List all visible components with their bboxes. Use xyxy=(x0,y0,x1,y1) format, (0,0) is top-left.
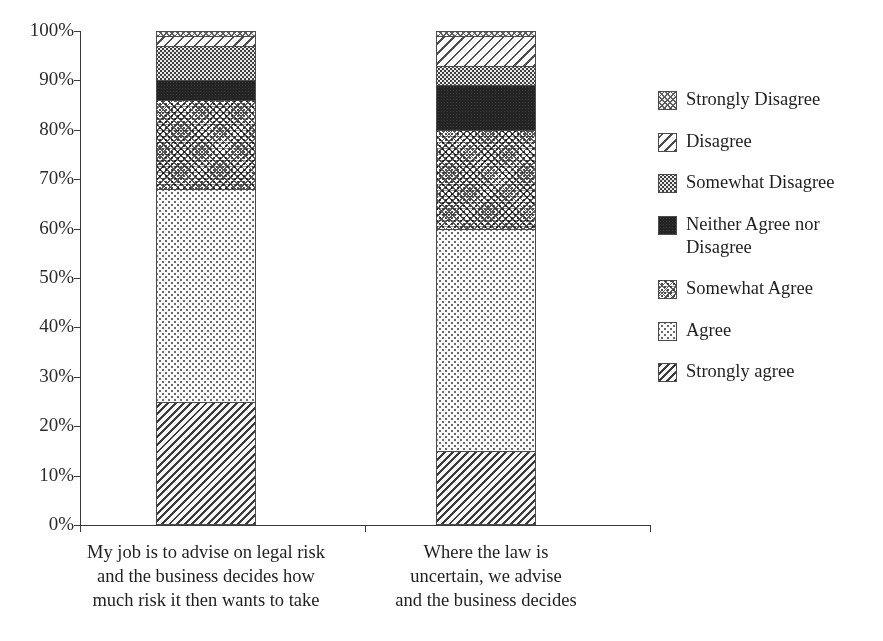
bar-segment xyxy=(156,402,256,526)
y-axis-tick-label: 10% xyxy=(39,464,74,486)
legend-item[interactable]: Somewhat Disagree xyxy=(658,171,883,194)
y-axis-tick-mark xyxy=(74,377,81,378)
y-axis-tick-label: 0% xyxy=(49,513,74,535)
y-axis-tick-label: 20% xyxy=(39,414,74,436)
wave-pattern-overlay xyxy=(157,101,255,189)
y-axis-tick-mark xyxy=(74,179,81,180)
legend-item[interactable]: Strongly agree xyxy=(658,360,883,383)
stacked-bar xyxy=(436,31,536,525)
legend-item-label: Disagree xyxy=(686,130,752,153)
bar-segment xyxy=(156,36,256,46)
wave-pattern-overlay xyxy=(659,281,676,298)
legend-swatch-icon xyxy=(658,91,677,110)
wave-pattern-overlay xyxy=(437,131,535,229)
bar-segment xyxy=(156,100,256,189)
x-axis-category-label: My job is to advise on legal riskand the… xyxy=(61,540,351,612)
y-axis-tick-label: 70% xyxy=(39,167,74,189)
legend-item-label: Strongly Disagree xyxy=(686,88,820,111)
y-axis-tick-mark xyxy=(74,31,81,32)
stacked-bar xyxy=(156,31,256,525)
x-axis-tick-mark xyxy=(365,525,366,532)
legend-item[interactable]: Somewhat Agree xyxy=(658,277,883,300)
legend-item-label: Somewhat Agree xyxy=(686,277,813,300)
bar-segment xyxy=(436,66,536,86)
x-axis-category-label-line: much risk it then wants to take xyxy=(61,588,351,612)
x-axis-category-label-line: and the business decides xyxy=(341,588,631,612)
bar-segment xyxy=(156,189,256,401)
y-axis-tick-mark xyxy=(74,476,81,477)
y-axis-tick-label: 40% xyxy=(39,315,74,337)
legend-swatch-icon xyxy=(658,363,677,382)
x-axis-tick-mark xyxy=(650,525,651,532)
y-axis-tick-mark xyxy=(74,80,81,81)
legend-item-label: Neither Agree nor Disagree xyxy=(686,213,883,259)
y-axis-tick-label: 80% xyxy=(39,118,74,140)
x-axis-category-label: Where the law isuncertain, we adviseand … xyxy=(341,540,631,612)
legend: Strongly DisagreeDisagreeSomewhat Disagr… xyxy=(658,88,883,402)
y-axis-tick-mark xyxy=(74,327,81,328)
bar-segment xyxy=(436,130,536,229)
legend-swatch-icon xyxy=(658,174,677,193)
y-axis-tick-label: 50% xyxy=(39,266,74,288)
legend-swatch-icon xyxy=(658,216,677,235)
bar-segment xyxy=(436,451,536,525)
chart-page: 100%90%80%70%60%50%40%30%20%10%0% My job… xyxy=(0,0,883,641)
legend-swatch-icon xyxy=(658,322,677,341)
plot-area: 100%90%80%70%60%50%40%30%20%10%0% My job… xyxy=(0,0,660,641)
bar-segment xyxy=(436,85,536,129)
legend-swatch-icon xyxy=(658,280,677,299)
y-axis-tick-mark xyxy=(74,426,81,427)
legend-item[interactable]: Disagree xyxy=(658,130,883,153)
legend-item-label: Agree xyxy=(686,319,731,342)
legend-item[interactable]: Strongly Disagree xyxy=(658,88,883,111)
y-axis-tick-label: 60% xyxy=(39,217,74,239)
legend-item-label: Strongly agree xyxy=(686,360,794,383)
legend-item[interactable]: Neither Agree nor Disagree xyxy=(658,213,883,259)
x-axis-category-label-line: Where the law is xyxy=(341,540,631,564)
y-axis-tick-mark xyxy=(74,130,81,131)
legend-item[interactable]: Agree xyxy=(658,319,883,342)
legend-item-label: Somewhat Disagree xyxy=(686,171,834,194)
y-axis-tick-label: 90% xyxy=(39,68,74,90)
y-axis-tick-label: 100% xyxy=(30,19,74,41)
x-axis-category-label-line: uncertain, we advise xyxy=(341,564,631,588)
y-axis-tick-mark xyxy=(74,278,81,279)
bar-segment xyxy=(436,36,536,66)
legend-swatch-icon xyxy=(658,133,677,152)
x-axis-category-label-line: and the business decides how xyxy=(61,564,351,588)
bar-segment xyxy=(156,46,256,81)
bar-segment xyxy=(156,80,256,100)
x-axis-category-label-line: My job is to advise on legal risk xyxy=(61,540,351,564)
y-axis-tick-mark xyxy=(74,229,81,230)
y-axis-tick-label: 30% xyxy=(39,365,74,387)
bar-segment xyxy=(436,229,536,451)
x-axis-tick-mark xyxy=(80,525,81,532)
